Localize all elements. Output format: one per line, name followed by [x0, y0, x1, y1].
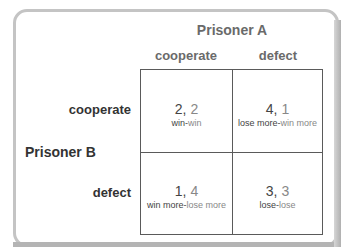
payoff-values: 4, 1 — [266, 102, 289, 117]
payoff-b: 3, — [266, 183, 278, 199]
outcome-label: lose more-win more — [238, 118, 317, 129]
payoff-a: 4 — [187, 183, 199, 199]
column-header-cooperate: cooperate — [140, 48, 232, 63]
payoff-values: 2, 2 — [175, 102, 198, 117]
payoff-cell-cooperate-defect: 4, 1 lose more-win more — [233, 70, 322, 153]
row-header-defect: defect — [93, 185, 131, 200]
payoff-cell-cooperate-cooperate: 2, 2 win-win — [141, 70, 233, 153]
payoff-b: 2, — [175, 101, 187, 117]
payoff-b: 4, — [266, 101, 278, 117]
payoff-b: 1, — [175, 183, 187, 199]
outcome-b: win- — [171, 118, 188, 128]
row-player-label: Prisoner B — [25, 144, 96, 160]
outcome-b: lose more- — [238, 118, 281, 128]
row-header-cooperate: cooperate — [69, 102, 131, 117]
payoff-a: 1 — [278, 101, 290, 117]
payoff-values: 1, 4 — [175, 184, 198, 199]
outcome-b: win more- — [147, 200, 187, 210]
outcome-a: win more — [281, 118, 318, 128]
payoff-values: 3, 3 — [266, 184, 289, 199]
outcome-a: win — [188, 118, 202, 128]
column-player-label: Prisoner A — [140, 22, 324, 38]
frame-shadow-bottom — [13, 242, 341, 247]
outcome-b: lose- — [259, 200, 279, 210]
payoff-a: 2 — [187, 101, 199, 117]
frame-shadow-right — [334, 20, 341, 247]
outcome-a: lose — [279, 200, 296, 210]
outcome-label: win more-lose more — [147, 200, 226, 211]
column-header-defect: defect — [232, 48, 324, 63]
outcome-a: lose more — [187, 200, 227, 210]
payoff-grid: 2, 2 win-win 4, 1 lose more-win more 1, … — [140, 69, 323, 235]
outcome-label: win-win — [171, 118, 201, 129]
payoff-a: 3 — [278, 183, 290, 199]
payoff-cell-defect-defect: 3, 3 lose-lose — [233, 153, 322, 234]
payoff-cell-defect-cooperate: 1, 4 win more-lose more — [141, 153, 233, 234]
outcome-label: lose-lose — [259, 200, 295, 211]
